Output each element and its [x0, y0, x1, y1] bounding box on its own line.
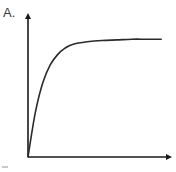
- partial-glyph: [2, 166, 8, 168]
- line-chart: [0, 0, 176, 172]
- saturating-curve: [28, 39, 161, 157]
